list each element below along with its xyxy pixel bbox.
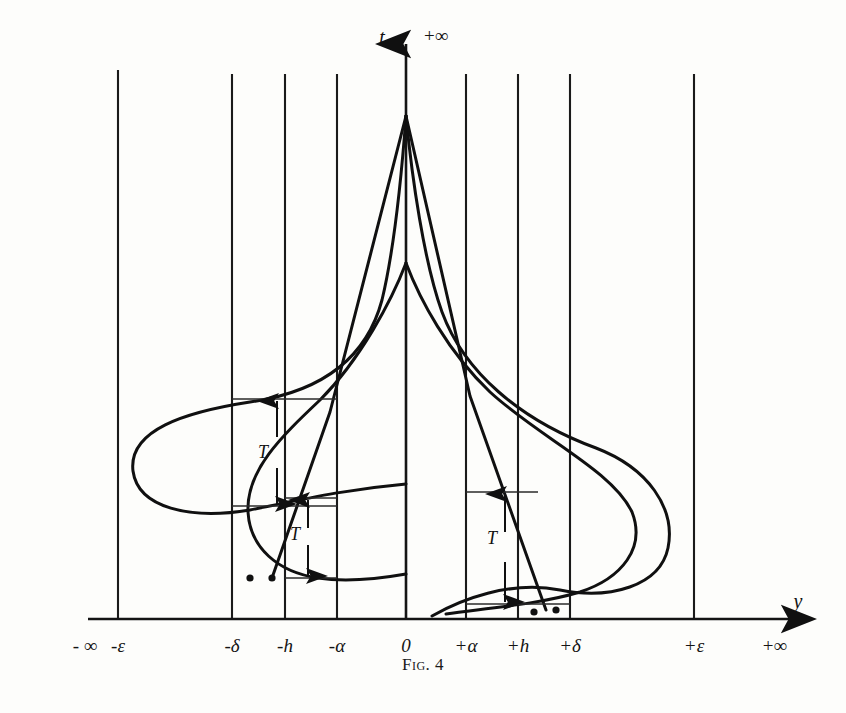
tick-label-zero: 0 [401,635,411,656]
point-left-lower-endpoint-a [246,574,253,581]
tick-label-pos-epsilon: +ε [684,635,705,656]
tick-labels: - ∞ -ε -δ -h -α 0 +α +h +δ +ε +∞ [73,635,787,656]
tick-label-pos-alpha: +α [455,635,479,656]
curve-right-outer-branch [406,116,669,616]
figure-caption: Fig. 4 [0,655,846,675]
t-axis-label: t [379,26,385,48]
tick-label-pos-h: +h [507,635,529,656]
point-right-lower-endpoint-b [552,606,559,613]
interval-T-lower-left: T [285,498,337,578]
interval-T-right-label: T [487,528,499,548]
curve-right-secant-line [406,116,546,610]
solution-curves [133,116,670,616]
tick-label-neg-epsilon: -ε [111,635,125,656]
t-axis-top-label: +∞ [424,25,448,46]
point-left-lower-endpoint-b [268,574,275,581]
curve-right-inner-branch [406,263,636,614]
point-right-lower-endpoint-a [530,608,537,615]
y-axis-label: y [792,590,803,613]
plot-canvas: T T T t +∞ y - ∞ -ε -δ -h -α 0 [0,0,846,713]
interval-T-lower-left-label: T [290,524,302,544]
tick-label-pos-infinity: +∞ [763,635,787,656]
figure-4: T T T t +∞ y - ∞ -ε -δ -h -α 0 [0,0,846,713]
curve-left-secant-line [272,116,406,578]
tick-label-neg-infinity: - ∞ [73,635,98,656]
tick-label-neg-h: -h [277,635,293,656]
marked-points [246,574,559,615]
tick-label-neg-alpha: -α [329,635,346,656]
interval-T-upper-left-label: T [258,442,270,462]
tick-label-neg-delta: -δ [224,635,240,656]
tick-label-pos-delta: +δ [559,635,582,656]
